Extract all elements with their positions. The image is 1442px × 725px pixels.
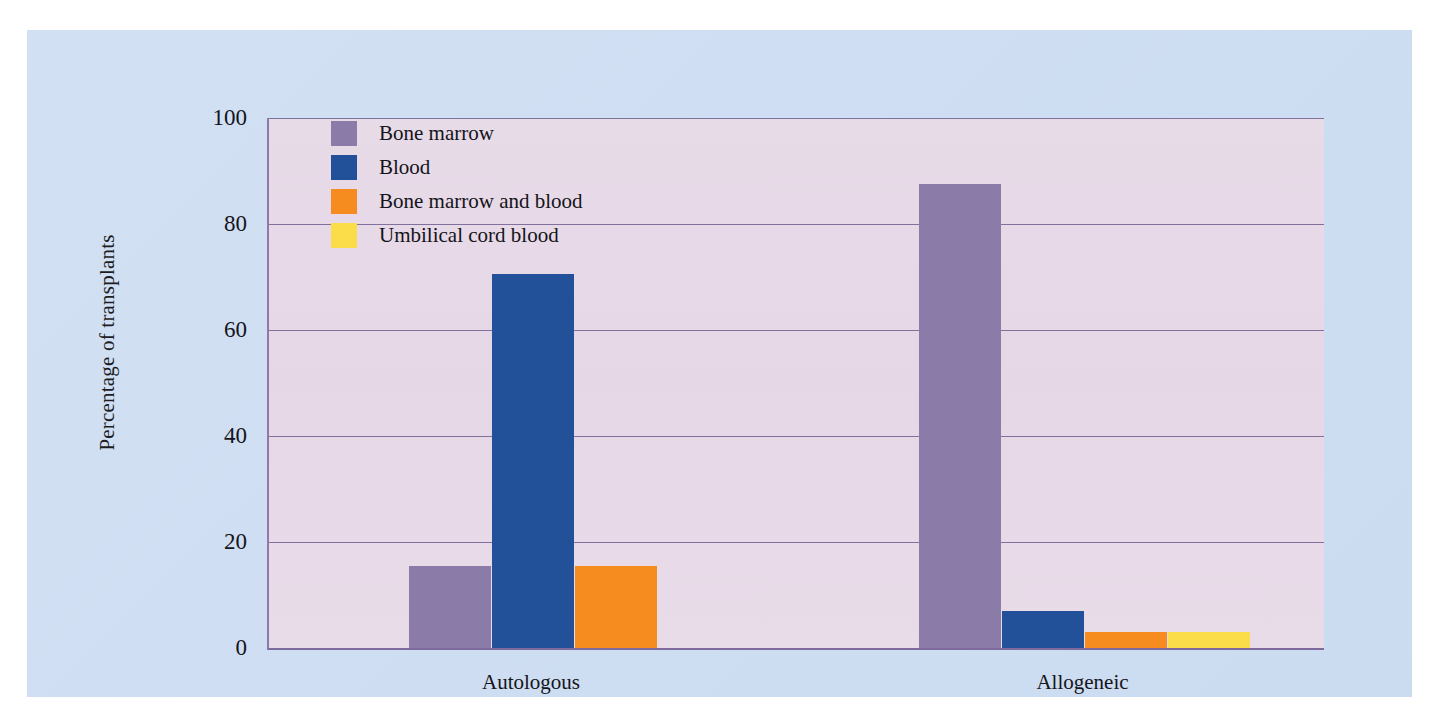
legend-swatch-icon xyxy=(331,223,357,248)
bar-autologous-bone-marrow-and-blood xyxy=(575,566,657,648)
gridline xyxy=(269,118,1324,119)
legend-label: Bone marrow xyxy=(379,123,494,144)
legend-item-bone-marrow[interactable]: Bone marrow xyxy=(331,120,583,146)
bar-allogeneic-blood xyxy=(1002,611,1084,648)
legend-label: Bone marrow and blood xyxy=(379,191,583,212)
x-axis-label-allogeneic: Allogeneic xyxy=(1036,670,1128,695)
gridline xyxy=(269,542,1324,543)
legend-item-bone-marrow-and-blood[interactable]: Bone marrow and blood xyxy=(331,188,583,214)
plot-area: 020406080100 Bone marrowBloodBone marrow… xyxy=(267,118,1324,650)
legend-swatch-icon xyxy=(331,189,357,214)
y-axis-tick-label: 60 xyxy=(157,317,247,343)
y-axis-tick-label: 40 xyxy=(157,423,247,449)
x-axis-label-autologous: Autologous xyxy=(482,670,580,695)
bar-allogeneic-bone-marrow xyxy=(919,184,1001,648)
bar-allogeneic-umbilical-cord-blood xyxy=(1168,632,1250,648)
figure-container: Percentage of transplants 020406080100 B… xyxy=(0,0,1442,725)
legend-item-blood[interactable]: Blood xyxy=(331,154,583,180)
legend-swatch-icon xyxy=(331,121,357,146)
legend-label: Blood xyxy=(379,157,430,178)
bar-autologous-blood xyxy=(492,274,574,648)
legend-item-umbilical-cord-blood[interactable]: Umbilical cord blood xyxy=(331,222,583,248)
y-axis-title: Percentage of transplants xyxy=(95,193,120,493)
bar-allogeneic-bone-marrow-and-blood xyxy=(1085,632,1167,648)
gridline xyxy=(269,436,1324,437)
gridline xyxy=(269,330,1324,331)
y-axis-tick-label: 20 xyxy=(157,529,247,555)
legend-swatch-icon xyxy=(331,155,357,180)
chart-panel: Percentage of transplants 020406080100 B… xyxy=(27,30,1412,697)
y-axis-tick-label: 100 xyxy=(157,105,247,131)
bar-autologous-bone-marrow xyxy=(409,566,491,648)
y-axis-tick-label: 0 xyxy=(157,635,247,661)
chart-legend: Bone marrowBloodBone marrow and bloodUmb… xyxy=(331,120,583,248)
legend-label: Umbilical cord blood xyxy=(379,225,559,246)
y-axis-tick-label: 80 xyxy=(157,211,247,237)
